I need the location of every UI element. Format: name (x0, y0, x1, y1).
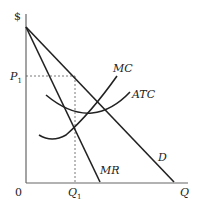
atc-label: ATC (131, 88, 156, 101)
monopoly-diagram: $ 0 Q P1 Q1 MC ATC MR D (0, 0, 197, 207)
demand-label: D (157, 151, 167, 164)
marginal-cost-curve (39, 76, 117, 139)
marginal-revenue-curve (26, 27, 100, 182)
y-axis-label: $ (14, 10, 21, 23)
mr-label: MR (99, 164, 120, 177)
price-p1-label: P1 (9, 70, 22, 85)
mc-label: MC (112, 62, 133, 75)
quantity-q1-label: Q1 (68, 186, 82, 201)
origin-label: 0 (15, 186, 22, 199)
demand-curve (26, 27, 174, 182)
x-axis-label: Q (180, 186, 189, 199)
